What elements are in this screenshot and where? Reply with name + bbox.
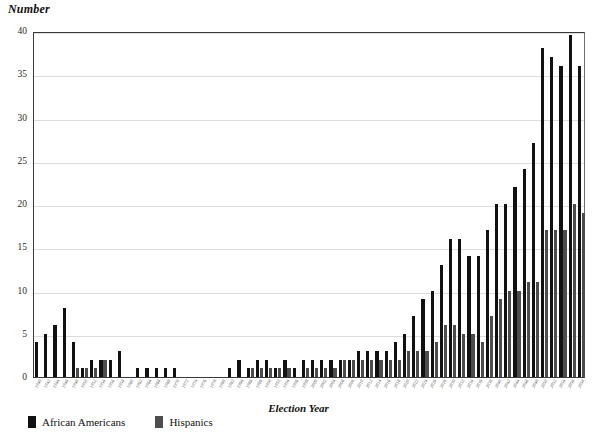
- bar-hispanics: [554, 230, 557, 377]
- x-tick-label: 2050: [540, 379, 548, 389]
- bar-hispanics: [517, 291, 520, 378]
- bar-hispanics: [251, 368, 254, 377]
- bar-african-americans: [504, 204, 507, 377]
- x-axis-tick-labels: 1940194219441946194819501952195419561958…: [33, 379, 585, 401]
- legend-label-hi: Hispanics: [169, 416, 212, 428]
- x-tick-label: 1960: [126, 379, 134, 389]
- chart-root: Number 0510152025303540 1940194219441946…: [0, 0, 597, 434]
- x-tick-label: 1970: [172, 379, 180, 389]
- bar-african-americans: [228, 368, 231, 377]
- bar-hispanics: [287, 368, 290, 377]
- bar-african-americans: [302, 360, 305, 377]
- y-tick-label: 25: [1, 157, 27, 167]
- x-tick-label: 2008: [347, 379, 355, 389]
- bar-african-americans: [412, 316, 415, 377]
- x-tick-label: 2054: [559, 379, 567, 389]
- legend-swatch-hi: [155, 416, 163, 428]
- bar-hispanics: [453, 325, 456, 377]
- bar-african-americans: [256, 360, 259, 377]
- x-tick-label: 1946: [62, 379, 70, 389]
- bar-hispanics: [379, 360, 382, 377]
- bar-african-americans: [449, 239, 452, 377]
- bar-hispanics: [407, 351, 410, 377]
- bar-african-americans: [523, 169, 526, 377]
- x-tick-label: 1988: [255, 379, 263, 389]
- x-tick-label: 1948: [71, 379, 79, 389]
- bar-hispanics: [508, 291, 511, 378]
- bar-african-americans: [35, 342, 38, 377]
- legend-swatch-aa: [28, 416, 36, 428]
- bar-african-americans: [53, 325, 56, 377]
- bar-african-americans: [421, 299, 424, 377]
- bar-african-americans: [375, 351, 378, 377]
- bar-african-americans: [265, 360, 268, 377]
- x-tick-label: 1994: [283, 379, 291, 389]
- bar-african-americans: [136, 368, 139, 377]
- bar-african-americans: [99, 360, 102, 377]
- bar-hispanics: [536, 282, 539, 377]
- bar-hispanics: [260, 368, 263, 377]
- bar-african-americans: [495, 204, 498, 377]
- bar-hispanics: [333, 368, 336, 377]
- bar-african-americans: [477, 256, 480, 377]
- bar-hispanics: [462, 334, 465, 377]
- bar-hispanics: [343, 360, 346, 377]
- x-tick-label: 2034: [467, 379, 475, 389]
- bar-african-americans: [155, 368, 158, 377]
- x-tick-label: 1962: [135, 379, 143, 389]
- bar-hispanics: [425, 351, 428, 377]
- bar-african-americans: [458, 239, 461, 377]
- bar-hispanics: [352, 360, 355, 377]
- bar-hispanics: [76, 368, 79, 377]
- bar-african-americans: [311, 360, 314, 377]
- bar-african-americans: [357, 351, 360, 377]
- bar-hispanics: [573, 204, 576, 377]
- x-tick-label: 1972: [181, 379, 189, 389]
- x-tick-label: 2002: [319, 379, 327, 389]
- x-tick-label: 1976: [200, 379, 208, 389]
- x-tick-label: 2048: [531, 379, 539, 389]
- y-tick-label: 40: [1, 27, 27, 37]
- x-tick-label: 1992: [273, 379, 281, 389]
- x-tick-label: 1956: [108, 379, 116, 389]
- x-tick-label: 2006: [338, 379, 346, 389]
- bar-african-americans: [467, 256, 470, 377]
- bar-african-americans: [569, 35, 572, 377]
- chart-legend: African AmericansHispanics: [28, 416, 243, 428]
- bar-hispanics: [361, 360, 364, 377]
- x-tick-label: 1958: [117, 379, 125, 389]
- x-tick-label: 1978: [209, 379, 217, 389]
- x-tick-label: 1980: [218, 379, 226, 389]
- bar-african-americans: [90, 360, 93, 377]
- x-tick-label: 1944: [53, 379, 61, 389]
- x-tick-label: 2032: [457, 379, 465, 389]
- bar-african-americans: [339, 360, 342, 377]
- bar-african-americans: [109, 360, 112, 377]
- bar-hispanics: [416, 351, 419, 377]
- x-tick-label: 2020: [402, 379, 410, 389]
- x-tick-label: 1974: [191, 379, 199, 389]
- bar-african-americans: [145, 368, 148, 377]
- x-tick-label: 1990: [264, 379, 272, 389]
- x-tick-label: 2040: [494, 379, 502, 389]
- bar-african-americans: [274, 368, 277, 377]
- bar-hispanics: [471, 334, 474, 377]
- y-tick-label: 35: [1, 71, 27, 81]
- y-axis-tick-labels: 0510152025303540: [0, 32, 30, 378]
- bar-african-americans: [348, 360, 351, 377]
- bar-african-americans: [513, 187, 516, 377]
- bar-african-americans: [81, 368, 84, 377]
- x-tick-label: 1984: [237, 379, 245, 389]
- x-tick-label: 2022: [411, 379, 419, 389]
- x-tick-label: 2038: [485, 379, 493, 389]
- x-tick-label: 2018: [393, 379, 401, 389]
- x-tick-label: 2030: [448, 379, 456, 389]
- bar-african-americans: [320, 360, 323, 377]
- x-tick-label: 1954: [99, 379, 107, 389]
- bar-african-americans: [559, 66, 562, 377]
- bar-hispanics: [398, 360, 401, 377]
- bar-hispanics: [94, 368, 97, 377]
- bar-hispanics: [499, 299, 502, 377]
- bar-african-americans: [578, 66, 581, 377]
- x-tick-label: 2056: [568, 379, 576, 389]
